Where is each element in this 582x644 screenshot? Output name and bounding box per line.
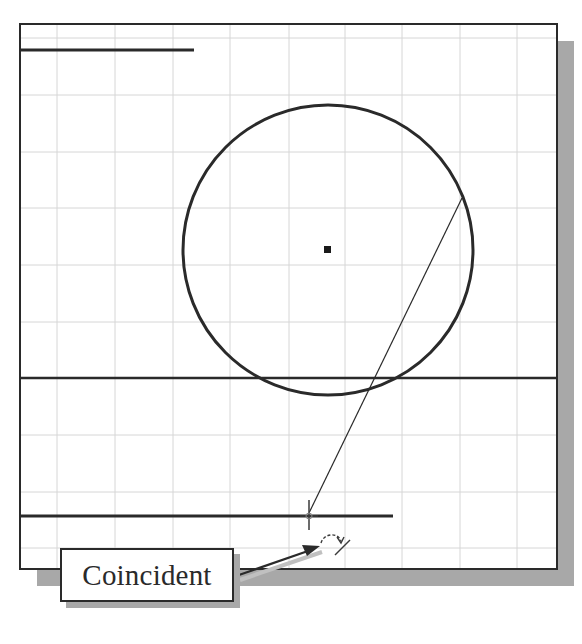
callout-label: Coincident bbox=[82, 559, 211, 592]
coincident-callout: Coincident bbox=[60, 548, 234, 602]
circle-center-point[interactable] bbox=[324, 246, 331, 253]
